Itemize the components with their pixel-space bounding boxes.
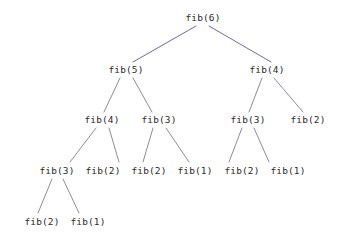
tree-node-n13: fib(2) (25, 216, 60, 227)
tree-node-n2: fib(4) (250, 64, 285, 75)
tree-edge (133, 78, 152, 112)
tree-node-n6: fib(2) (291, 114, 326, 125)
tree-edge (109, 128, 119, 162)
tree-node-n11: fib(2) (225, 165, 260, 176)
tree-node-n3: fib(4) (85, 114, 120, 125)
tree-node-n4: fib(3) (142, 114, 177, 125)
tree-edge (249, 78, 262, 112)
tree-node-n1: fib(5) (109, 64, 144, 75)
tree-node-n5: fib(3) (231, 114, 266, 125)
tree-edge (274, 78, 303, 112)
tree-node-n8: fib(2) (86, 165, 121, 176)
tree-edge (166, 128, 189, 162)
tree-node-n7: fib(3) (40, 165, 75, 176)
tree-edge (38, 179, 52, 213)
tree-node-n0: fib(6) (186, 12, 221, 23)
tree-node-n9: fib(2) (132, 165, 167, 176)
tree-edge (133, 26, 196, 62)
tree-edge (143, 128, 153, 162)
tree-node-n10: fib(1) (178, 165, 213, 176)
tree-edge (209, 26, 271, 62)
tree-edge (229, 128, 242, 162)
tree-edge (63, 179, 79, 213)
tree-node-n14: fib(1) (71, 216, 106, 227)
tree-edge (104, 78, 120, 112)
tree-edge (70, 128, 96, 162)
recursion-tree-diagram: fib(6)fib(5)fib(4)fib(4)fib(3)fib(3)fib(… (0, 0, 344, 245)
tree-edge (254, 128, 269, 162)
tree-node-n12: fib(1) (271, 165, 306, 176)
